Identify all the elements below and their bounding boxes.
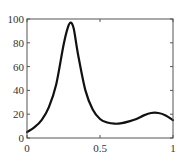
x-tick-label: 0.5 (93, 142, 107, 154)
y-tick-label: 20 (13, 108, 25, 120)
x-tick-label: 1 (170, 142, 176, 154)
line-chart: 020406080100 00.51 (0, 0, 185, 162)
x-tick-label: 0 (24, 142, 30, 154)
y-tick-label: 60 (13, 61, 25, 73)
y-tick-label: 80 (13, 37, 25, 49)
y-tick-label: 40 (13, 84, 25, 96)
y-tick-label: 100 (8, 13, 25, 25)
